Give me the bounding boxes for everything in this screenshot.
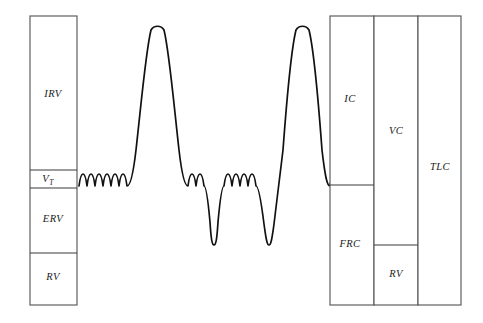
lung-volumes-bar: IRV VT ERV RV xyxy=(30,16,77,305)
label-irv: IRV xyxy=(43,88,63,99)
spirogram-trace xyxy=(79,26,340,245)
label-vt-subscript: T xyxy=(49,178,54,187)
capacity-bar-tlc: TLC xyxy=(418,16,461,305)
label-erv: ERV xyxy=(42,213,64,224)
spirogram-canvas: IRV VT ERV RV IC FRC VC RV TLC xyxy=(0,0,483,323)
label-tlc: TLC xyxy=(430,161,450,172)
label-frc: FRC xyxy=(338,238,361,249)
label-rv-volumes: RV xyxy=(45,271,61,282)
label-rv-capacities: RV xyxy=(388,268,404,279)
label-ic: IC xyxy=(343,93,356,104)
capacity-bar-vc-rv: VC RV xyxy=(374,16,418,305)
lung-volumes-bar-outline xyxy=(30,16,77,305)
capacity-bar-vc-rv-outline xyxy=(374,16,418,305)
spirogram-figure: IRV VT ERV RV IC FRC VC RV TLC xyxy=(0,0,483,323)
capacity-bar-ic-frc: IC FRC xyxy=(330,16,374,305)
capacity-bar-ic-frc-outline xyxy=(330,16,374,305)
label-vc: VC xyxy=(389,125,404,136)
